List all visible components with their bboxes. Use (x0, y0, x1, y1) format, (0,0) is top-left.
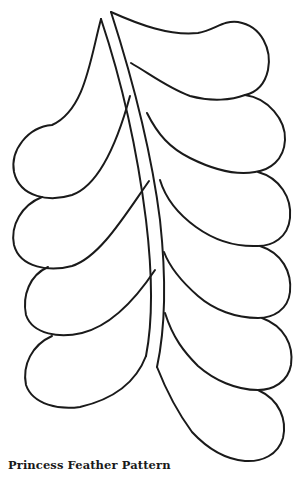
right-plume-5 (165, 313, 292, 390)
princess-feather-illustration (0, 0, 305, 484)
right-plume-1 (111, 12, 269, 100)
left-plume-3 (25, 267, 155, 335)
left-plume-4 (25, 336, 146, 408)
caption-title: Princess Feather Pattern (8, 458, 171, 472)
left-plume-1 (13, 19, 130, 198)
right-plume-2 (147, 95, 285, 173)
right-plume-3 (160, 172, 290, 246)
right-plume-4 (164, 246, 290, 318)
